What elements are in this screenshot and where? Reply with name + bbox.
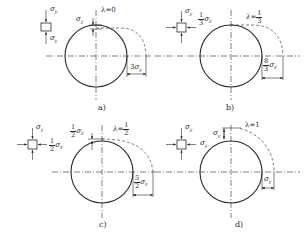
right-offset-label: 52σy (134, 175, 147, 189)
plastic-zone-curve (96, 28, 146, 56)
caption-c: c) (99, 221, 107, 229)
lambda-label: λ=1 (245, 122, 260, 129)
right-offset-label: σy (264, 176, 271, 184)
top-offset-label: σy (76, 16, 83, 24)
stress-element-box (28, 140, 37, 149)
lambda-label: λ=0 (101, 7, 116, 14)
right-offset-label: 83σy (263, 58, 276, 72)
stress-element-box (177, 23, 186, 32)
top-offset-label: 12σy (70, 124, 83, 138)
stress-label-vertical-top: σy (50, 6, 57, 14)
panel-a (41, 10, 152, 100)
stress-label-vertical-bottom: σy (50, 35, 57, 43)
right-offset-label: 3σy (130, 64, 142, 72)
lambda-label: λ=12 (113, 122, 129, 136)
panel-d (155, 125, 300, 218)
panel-c (17, 125, 155, 218)
stress-label-vertical: σy (185, 8, 192, 16)
plastic-zone-circle (240, 129, 274, 173)
stress-label-horizontal: 12σy (49, 138, 62, 152)
plastic-zone-curve (231, 25, 283, 56)
stress-element-box (177, 140, 186, 149)
caption-a: a) (98, 104, 106, 112)
plastic-zone-curve (102, 139, 153, 172)
top-offset-label: σy (213, 130, 220, 138)
panel-b (155, 10, 300, 100)
stress-label-vertical: σy (185, 124, 192, 132)
stress-label-horizontal: σy (200, 140, 207, 148)
lambda-label: λ=13 (246, 10, 262, 24)
stress-element-box (41, 23, 51, 31)
diagram-canvas (0, 0, 308, 239)
stress-label-horizontal: 13σy (198, 12, 211, 26)
stress-label-vertical: σy (36, 124, 43, 132)
caption-d: d) (235, 221, 243, 229)
caption-b: b) (226, 104, 234, 112)
